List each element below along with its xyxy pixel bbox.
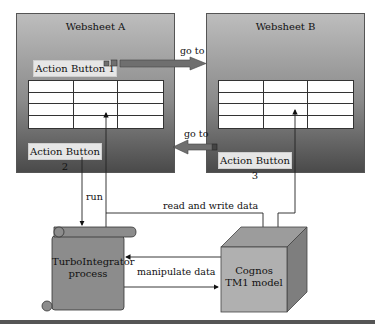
process-label-line2: process xyxy=(52,268,124,280)
goto-label-bottom: go to xyxy=(184,128,208,139)
read-write-label: read and write data xyxy=(163,200,258,211)
model-label: Cognos TM1 model xyxy=(221,265,287,289)
run-label: run xyxy=(86,191,103,202)
goto-arrow-left xyxy=(173,140,217,154)
model-label-line2: TM1 model xyxy=(221,277,287,289)
bottom-rule xyxy=(0,320,375,324)
manipulate-label: manipulate data xyxy=(137,266,215,277)
goto-label-top: go to xyxy=(180,45,204,56)
goto-arrow-right xyxy=(104,57,206,70)
process-label: TurboIntegrator process xyxy=(52,256,124,280)
model-label-line1: Cognos xyxy=(221,265,287,277)
process-label-line1: TurboIntegrator xyxy=(52,256,124,268)
